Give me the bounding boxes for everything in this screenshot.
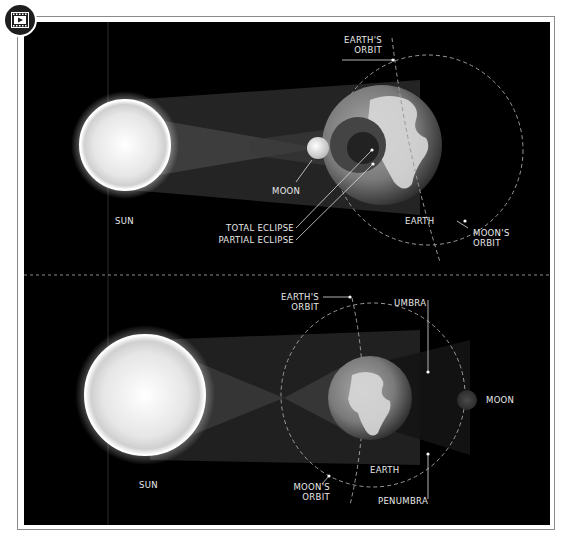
- video-play-icon: [11, 12, 29, 28]
- label-line: ORBIT: [473, 238, 510, 248]
- label-line: ORBIT: [326, 45, 382, 55]
- label-line: MOON'S: [473, 228, 510, 238]
- label-moon-top: MOON: [272, 186, 300, 196]
- label-earth-bottom: EARTH: [370, 465, 400, 475]
- video-badge[interactable]: [3, 3, 37, 37]
- sun-bottom: [85, 335, 205, 455]
- moon-top: [307, 137, 329, 159]
- label-earth-top: EARTH: [405, 216, 435, 226]
- label-line: EARTH'S: [326, 35, 382, 45]
- label-sun-top: SUN: [115, 216, 134, 226]
- label-penumbra: PENUMBRA: [378, 496, 428, 506]
- label-sun-bottom: SUN: [139, 480, 158, 490]
- label-line: ORBIT: [286, 492, 330, 502]
- label-line: ORBIT: [263, 302, 319, 312]
- label-moons-orbit-bottom: MOON'S ORBIT: [286, 482, 330, 502]
- diagram-canvas: EARTH'S ORBIT MOON SUN TOTAL ECLIPSE PAR…: [24, 22, 550, 525]
- label-line: EARTH'S: [263, 292, 319, 302]
- label-moons-orbit-top: MOON'S ORBIT: [473, 228, 510, 248]
- label-line: MOON'S: [286, 482, 330, 492]
- label-moon-bottom: MOON: [486, 395, 514, 405]
- label-umbra: UMBRA: [394, 298, 426, 308]
- eclipse-diagram: [24, 22, 550, 525]
- sun-top: [80, 100, 170, 190]
- label-earths-orbit-top: EARTH'S ORBIT: [326, 35, 382, 55]
- label-partial-eclipse: PARTIAL ECLIPSE: [180, 235, 294, 245]
- label-earths-orbit-bottom: EARTH'S ORBIT: [263, 292, 319, 312]
- lunar-eclipse-panel: [75, 295, 477, 505]
- label-total-eclipse: TOTAL ECLIPSE: [200, 223, 294, 233]
- moon-bottom: [457, 390, 477, 410]
